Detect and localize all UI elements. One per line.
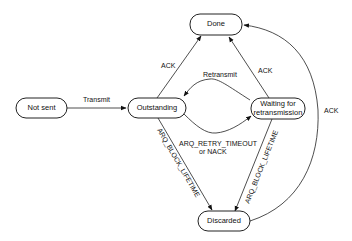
state-done: Done — [190, 14, 242, 35]
transition-transmit: Transmit — [67, 96, 126, 108]
transition-retry-timeout: ARQ_RETRY_TIMEOUT or NACK — [179, 114, 258, 155]
svg-text:ARQ_BLOCK_LIFETIME: ARQ_BLOCK_LIFETIME — [155, 127, 201, 199]
svg-text:Retransmit: Retransmit — [203, 71, 237, 78]
svg-text:Done: Done — [207, 19, 225, 28]
transition-discarded-done-ack: ACK — [244, 25, 339, 221]
svg-text:or NACK: or NACK — [199, 148, 227, 155]
svg-text:Discarded: Discarded — [207, 216, 241, 225]
state-diagram: Transmit ACK ACK ACK Retransmit ARQ_RETR… — [0, 0, 352, 241]
state-waiting-for-retransmission: Waiting for retransmission — [251, 98, 305, 119]
transition-outstanding-done-ack: ACK — [157, 36, 201, 98]
transition-retransmit: Retransmit — [184, 71, 250, 100]
svg-text:Transmit: Transmit — [83, 96, 110, 103]
svg-text:ACK: ACK — [324, 107, 339, 114]
transition-waiting-discarded: ARQ_BLOCK_LIFETIME — [235, 119, 280, 211]
svg-text:Waiting for: Waiting for — [260, 99, 296, 108]
state-discarded: Discarded — [198, 211, 250, 231]
state-outstanding: Outstanding — [128, 98, 186, 118]
svg-text:ARQ_RETRY_TIMEOUT: ARQ_RETRY_TIMEOUT — [179, 140, 258, 148]
state-not-sent: Not sent — [16, 98, 67, 118]
transition-waiting-done-ack: ACK — [229, 37, 273, 98]
svg-text:ACK: ACK — [161, 62, 176, 69]
svg-text:Outstanding: Outstanding — [137, 103, 177, 112]
transition-outstanding-discarded: ARQ_BLOCK_LIFETIME — [155, 118, 212, 210]
svg-text:Not sent: Not sent — [28, 103, 57, 112]
svg-text:ACK: ACK — [258, 67, 273, 74]
svg-text:retransmission: retransmission — [254, 108, 303, 117]
